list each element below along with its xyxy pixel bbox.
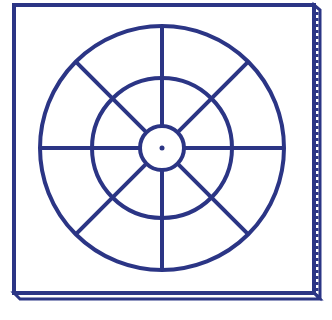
- center-dot: [160, 146, 165, 151]
- target-board-diagram: [0, 0, 332, 320]
